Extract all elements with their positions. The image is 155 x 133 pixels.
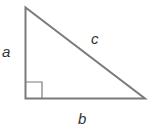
right-angle-marker (26, 82, 43, 99)
label-side-b: b (78, 110, 86, 127)
label-side-c: c (91, 30, 99, 47)
triangle (26, 8, 146, 99)
right-triangle-diagram: a c b (0, 0, 155, 133)
label-side-a: a (2, 43, 10, 60)
